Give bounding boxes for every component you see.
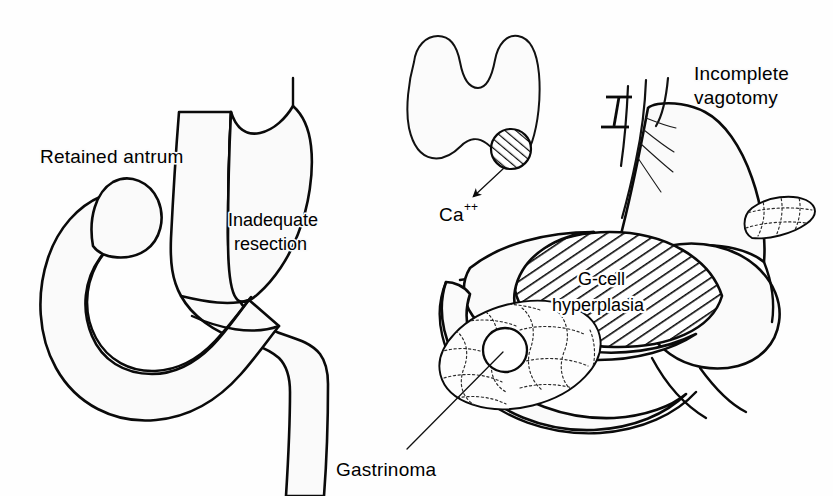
gastric-fundus-outline (228, 106, 312, 302)
label-retained-antrum: Retained antrum (40, 146, 183, 167)
label-incomplete-vagotomy-line2: vagotomy (694, 87, 778, 108)
calcium-arrow (474, 168, 504, 196)
label-g-cell-line1: G-cell (578, 269, 625, 289)
medical-figure: Retained antrum Inadequate resection Ca … (0, 0, 833, 496)
label-g-cell-line2: hyperplasia (552, 295, 645, 315)
label-calcium-text: Ca (439, 204, 464, 225)
label-incomplete-vagotomy-line1: Incomplete (694, 63, 789, 84)
label-inadequate-resection-line2: resection (234, 234, 307, 254)
figure-canvas: Retained antrum Inadequate resection Ca … (0, 0, 833, 496)
label-inadequate-resection-line1: Inadequate (228, 210, 318, 230)
left-panel-post-gastrectomy: Retained antrum Inadequate resection (40, 78, 328, 496)
retained-antrum-mass (92, 178, 162, 257)
retained-antrum-outline (92, 178, 162, 257)
label-calcium-superscript: ++ (464, 200, 478, 214)
vagus-transection-stem (614, 97, 619, 126)
label-gastrinoma: Gastrinoma (336, 459, 436, 480)
parathyroid-adenoma (491, 129, 531, 169)
center-panel-thyroid: Ca ++ (407, 36, 539, 225)
pylorus-duodenum-contour (700, 368, 746, 412)
label-calcium: Ca ++ (439, 200, 478, 225)
